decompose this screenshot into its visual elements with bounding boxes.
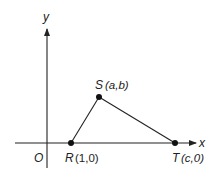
label-r: R (1,0) [65, 151, 99, 165]
point-s-coords: (a,b) [105, 79, 129, 91]
y-axis-label: y [42, 10, 50, 24]
point-r-coords: (1,0) [75, 152, 99, 164]
point-t-coords: (c,0) [181, 152, 204, 164]
point-t-name: T [172, 151, 181, 165]
point-r-name: R [65, 151, 74, 165]
point-r [68, 140, 74, 146]
coordinate-diagram: y x O R (1,0) S (a,b) T (c,0) [0, 0, 213, 177]
origin-label: O [34, 151, 43, 165]
segment-rs [71, 97, 99, 143]
x-axis-label: x [198, 136, 206, 150]
point-t [172, 140, 178, 146]
point-s-name: S [95, 78, 103, 92]
point-s [96, 94, 102, 100]
label-t: T (c,0) [172, 151, 204, 165]
label-s: S (a,b) [95, 78, 129, 92]
segment-st [99, 97, 175, 143]
